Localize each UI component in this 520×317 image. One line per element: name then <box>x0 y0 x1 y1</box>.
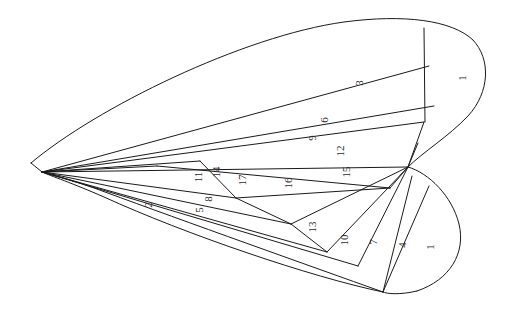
sector-label-13: 13 <box>306 221 318 233</box>
diagram-background <box>0 0 520 317</box>
sector-label-16: 16 <box>282 177 294 189</box>
sector-diagram-svg: 13691215161714118521310741 <box>0 0 520 317</box>
sector-label-8: 8 <box>202 196 214 202</box>
sector-label-1: 1 <box>424 244 436 250</box>
sector-label-15: 15 <box>340 166 352 178</box>
sector-label-17: 17 <box>236 174 248 186</box>
sector-label-6: 6 <box>318 117 330 123</box>
sector-label-4: 4 <box>396 242 408 248</box>
sector-label-14: 14 <box>210 166 222 178</box>
sector-label-9: 9 <box>306 135 318 141</box>
sector-label-10: 10 <box>338 234 350 246</box>
sector-label-11: 11 <box>192 172 204 183</box>
sector-label-7: 7 <box>367 239 379 245</box>
sector-label-5: 5 <box>193 207 205 213</box>
sector-label-1: 1 <box>456 75 468 81</box>
sector-label-2: 2 <box>142 202 154 208</box>
diagram-canvas: 13691215161714118521310741 <box>0 0 520 317</box>
sector-label-12: 12 <box>334 146 346 157</box>
sector-label-3: 3 <box>353 80 365 86</box>
